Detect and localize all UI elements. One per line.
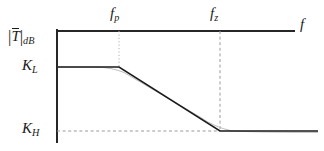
fz-subscript: z bbox=[214, 12, 218, 23]
asymptotic-response-curve bbox=[57, 67, 318, 131]
kh-subscript: H bbox=[32, 127, 39, 138]
actual-response-curve bbox=[57, 67, 318, 132]
kl-level-label: KL bbox=[22, 58, 38, 73]
fz-breakpoint-label: fz bbox=[210, 6, 218, 21]
bode-plot-canvas bbox=[0, 0, 324, 151]
kh-level-label: KH bbox=[22, 121, 39, 136]
fp-breakpoint-label: fp bbox=[110, 6, 119, 21]
x-axis-label: f bbox=[300, 17, 304, 32]
y-axis-label: |T|dB bbox=[8, 27, 34, 45]
bode-plot-figure: |T|dB KL KH fp fz f bbox=[0, 0, 324, 151]
kl-subscript: L bbox=[32, 64, 38, 75]
y-axis-label-magnitude-symbol: T bbox=[11, 27, 19, 44]
kh-symbol: K bbox=[22, 120, 32, 136]
fp-subscript: p bbox=[114, 12, 119, 23]
y-axis-label-subscript: dB bbox=[23, 35, 34, 46]
kl-symbol: K bbox=[22, 57, 32, 73]
